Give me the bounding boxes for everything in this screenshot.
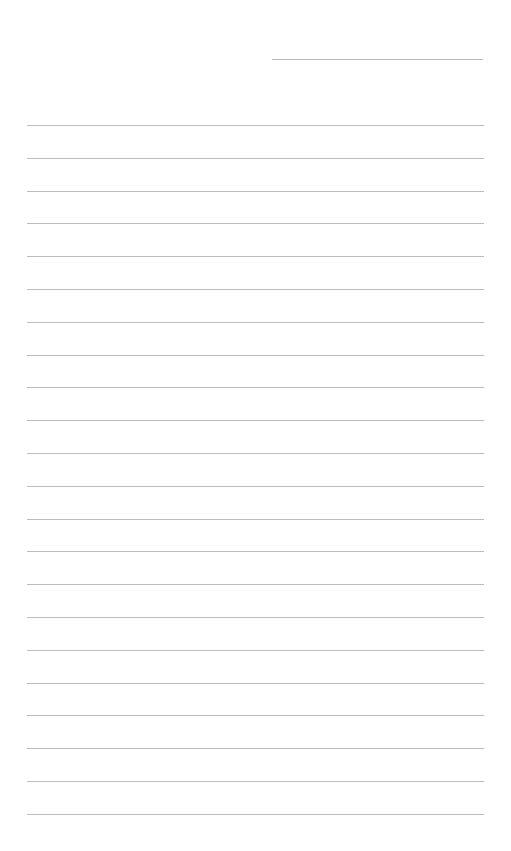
ruled-line <box>27 683 484 684</box>
ruled-line <box>27 715 484 716</box>
ruled-line <box>27 223 484 224</box>
header-write-line <box>272 59 483 60</box>
ruled-line <box>27 584 484 585</box>
ruled-line <box>27 519 484 520</box>
ruled-line <box>27 256 484 257</box>
ruled-line <box>27 191 484 192</box>
faint-footer-marks <box>10 841 501 849</box>
ruled-line <box>27 355 484 356</box>
ruled-line <box>27 814 484 815</box>
ruled-line <box>27 125 484 126</box>
ruled-line <box>27 289 484 290</box>
ruled-line <box>27 748 484 749</box>
lined-paper-page <box>0 0 511 851</box>
ruled-line <box>27 617 484 618</box>
ruled-line <box>27 650 484 651</box>
ruled-line <box>27 420 484 421</box>
ruled-line <box>27 551 484 552</box>
ruled-line <box>27 322 484 323</box>
ruled-line <box>27 158 484 159</box>
ruled-line <box>27 781 484 782</box>
ruled-line <box>27 486 484 487</box>
ruled-line <box>27 387 484 388</box>
ruled-line <box>27 453 484 454</box>
